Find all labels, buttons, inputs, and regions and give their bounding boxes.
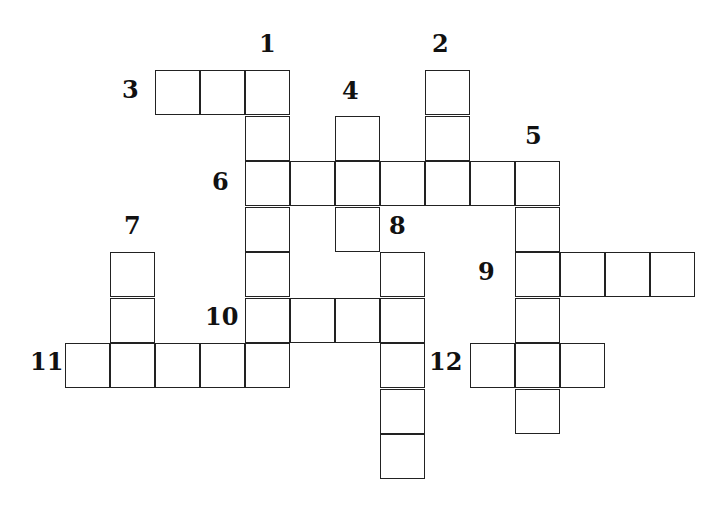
- crossword-cell[interactable]: [155, 343, 200, 388]
- clue-number: 2: [432, 32, 449, 56]
- crossword-cell[interactable]: [65, 343, 110, 388]
- crossword-cell[interactable]: [425, 161, 470, 206]
- clue-number: 3: [122, 78, 139, 102]
- clue-number: 8: [389, 214, 406, 238]
- crossword-cell[interactable]: [515, 389, 560, 434]
- crossword-cell[interactable]: [245, 298, 290, 343]
- crossword-cell[interactable]: [515, 343, 560, 388]
- crossword-cell[interactable]: [605, 252, 650, 297]
- crossword-cell[interactable]: [650, 252, 695, 297]
- crossword-cell[interactable]: [245, 161, 290, 206]
- crossword-cell[interactable]: [245, 252, 290, 297]
- crossword-cell[interactable]: [110, 252, 155, 297]
- clue-number: 1: [259, 32, 276, 56]
- crossword-cell[interactable]: [245, 207, 290, 252]
- crossword-cell[interactable]: [380, 298, 425, 343]
- crossword-cell[interactable]: [335, 161, 380, 206]
- crossword-cell[interactable]: [380, 389, 425, 434]
- crossword-cell[interactable]: [380, 161, 425, 206]
- clue-number: 6: [212, 170, 229, 194]
- crossword-cell[interactable]: [335, 298, 380, 343]
- crossword-cell[interactable]: [155, 70, 200, 115]
- crossword-cell[interactable]: [290, 298, 335, 343]
- crossword-cell[interactable]: [380, 252, 425, 297]
- clue-number: 5: [525, 124, 542, 148]
- crossword-cell[interactable]: [515, 161, 560, 206]
- crossword-cell[interactable]: [425, 70, 470, 115]
- crossword-cell[interactable]: [380, 434, 425, 479]
- crossword-cell[interactable]: [110, 298, 155, 343]
- crossword-cell[interactable]: [515, 207, 560, 252]
- crossword-cell[interactable]: [380, 343, 425, 388]
- crossword-cell[interactable]: [335, 116, 380, 161]
- crossword-cell[interactable]: [290, 161, 335, 206]
- clue-number: 7: [124, 214, 141, 238]
- clue-number: 10: [205, 305, 238, 329]
- crossword-cell[interactable]: [200, 70, 245, 115]
- crossword-cell[interactable]: [335, 207, 380, 252]
- crossword-cell[interactable]: [245, 116, 290, 161]
- crossword-cell[interactable]: [515, 298, 560, 343]
- crossword-cell[interactable]: [110, 343, 155, 388]
- crossword-cell[interactable]: [470, 161, 515, 206]
- crossword-cell[interactable]: [245, 70, 290, 115]
- crossword-cell[interactable]: [245, 343, 290, 388]
- clue-number: 4: [342, 79, 359, 103]
- crossword-cell[interactable]: [470, 343, 515, 388]
- clue-number: 11: [30, 350, 63, 374]
- crossword-cell[interactable]: [515, 252, 560, 297]
- crossword-cell[interactable]: [560, 252, 605, 297]
- clue-number: 9: [478, 260, 495, 284]
- crossword-cell[interactable]: [560, 343, 605, 388]
- crossword-cell[interactable]: [200, 343, 245, 388]
- crossword-cell[interactable]: [425, 116, 470, 161]
- clue-number: 12: [429, 350, 462, 374]
